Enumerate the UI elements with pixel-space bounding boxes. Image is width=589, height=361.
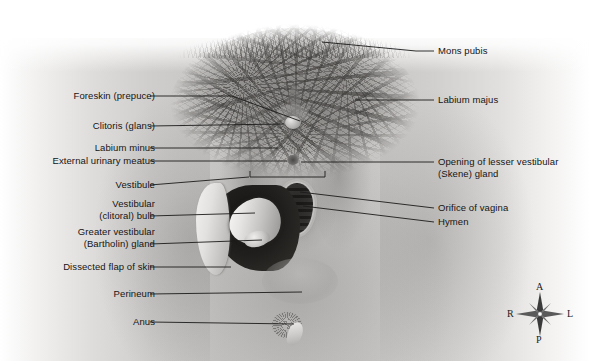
label-orifice-of-vagina: Orifice of vagina xyxy=(438,202,558,214)
label-labium-majus: Labium majus xyxy=(438,94,558,106)
label-dissected-flap-of-skin: Dissected flap of skin xyxy=(26,261,155,273)
label-clitoris-glans: Clitoris (glans) xyxy=(55,120,155,132)
label-external-urinary-meatus: External urinary meatus xyxy=(13,155,155,167)
label-labium-minus: Labium minus xyxy=(55,142,155,154)
label-foreskin-prepuce: Foreskin (prepuce) xyxy=(45,90,155,102)
perineum-body xyxy=(262,258,338,304)
clitoral-glans xyxy=(285,116,301,129)
label-opening-of-lesser-vestibular-skene-gland: Opening of lesser vestibular (Skene) gla… xyxy=(438,156,588,179)
label-perineum: Perineum xyxy=(83,288,155,300)
orientation-compass-rose: A P R L xyxy=(505,282,575,346)
label-mons-pubis: Mons pubis xyxy=(438,45,558,57)
label-anus: Anus xyxy=(110,316,155,328)
compass-label-anterior: A xyxy=(536,282,543,292)
external-urinary-meatus xyxy=(287,155,299,165)
label-hymen: Hymen xyxy=(438,216,558,228)
compass-label-left: L xyxy=(567,309,573,319)
pubic-hair-fringe xyxy=(176,18,414,58)
anatomical-figure: Foreskin (prepuce)Clitoris (glans)Labium… xyxy=(0,0,589,361)
compass-label-right: R xyxy=(507,309,514,319)
label-vestibule: Vestibule xyxy=(83,179,155,191)
label-vestibular-clitoral-bulb: Vestibular (clitoral) bulb xyxy=(60,198,155,221)
label-greater-vestibular-bartholin-gland: Greater vestibular (Bartholin) gland xyxy=(40,226,155,249)
compass-label-posterior: P xyxy=(536,335,542,345)
